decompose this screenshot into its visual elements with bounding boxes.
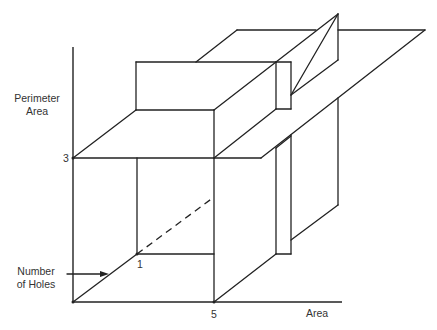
back-panel-mid-diagonal — [291, 60, 338, 95]
back-panel-top-diagonal — [291, 14, 338, 95]
depth-axis-label: Number of Holes — [6, 265, 66, 291]
depth-axis-label-line1: Number — [6, 265, 66, 278]
vertical-axis-label: Perimeter Area — [6, 92, 68, 118]
upper-box-bottom-diagonal — [214, 109, 276, 158]
back-panel-top-left — [276, 14, 338, 62]
origin-point — [72, 301, 75, 304]
upper-box-top-left-diagonal — [196, 30, 237, 62]
slab-plane-intersection — [276, 136, 291, 148]
tick-label-3: 3 — [63, 152, 69, 165]
vertical-axis-label-line2: Area — [6, 105, 68, 118]
plane-left-diagonal — [73, 110, 136, 158]
vertical-axis-label-line1: Perimeter — [6, 92, 68, 105]
upper-box-mid-diagonal — [214, 62, 276, 110]
tick-label-1: 1 — [137, 258, 143, 271]
horizontal-axis-label: Area — [306, 307, 328, 320]
depth-axis-label-line2: of Holes — [6, 278, 66, 291]
holes-axis-solid — [73, 254, 137, 302]
holes-axis-dashed — [137, 197, 214, 254]
plane-right-diagonal — [261, 30, 425, 158]
back-panel-bottom-diagonal — [291, 205, 338, 240]
slab-bottom-diagonal — [214, 254, 276, 302]
tick-label-5: 5 — [211, 308, 217, 321]
